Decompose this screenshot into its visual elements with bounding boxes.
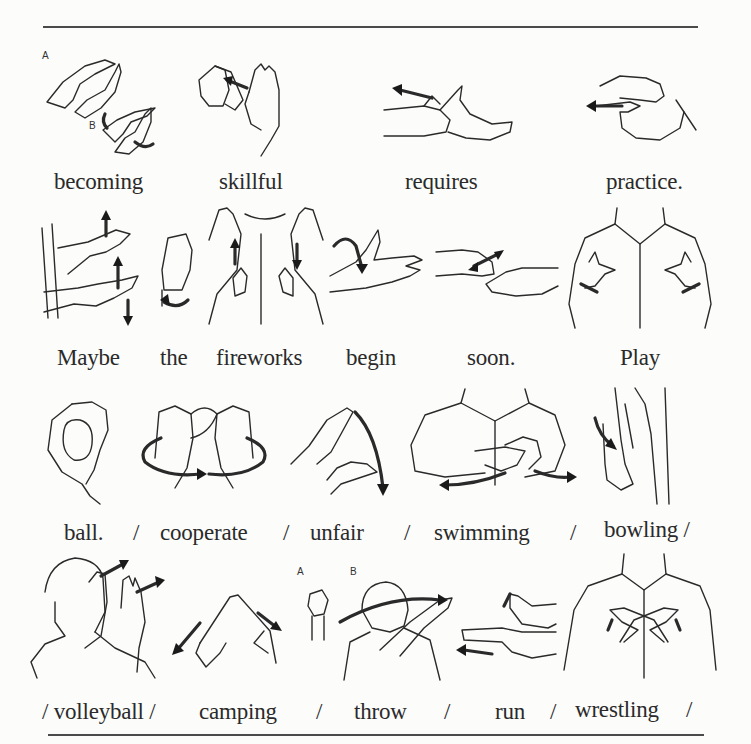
separator-slash: / [316, 700, 322, 723]
sign-cooperate-illustration [135, 398, 273, 490]
word-begin: begin [346, 346, 396, 369]
word-requires: requires [405, 170, 477, 193]
sign-the-illustration [158, 230, 200, 310]
illustration-label-a: A [42, 50, 49, 61]
sign-bowling-illustration [585, 384, 720, 504]
separator-slash: / [133, 521, 139, 544]
sign-fireworks-illustration [205, 204, 327, 329]
word-fireworks: fireworks [216, 346, 302, 369]
separator-slash: / [686, 698, 692, 721]
word-ball: ball. [64, 521, 103, 544]
sign-begin-illustration [326, 226, 436, 298]
separator-slash: / [570, 521, 576, 544]
word-skillful: skillful [219, 170, 283, 193]
sign-throw-illustration [300, 570, 460, 682]
sign-requires-illustration [380, 80, 520, 144]
word-maybe: Maybe [57, 346, 120, 369]
sign-play-illustration [565, 204, 715, 332]
word-soon: soon. [467, 346, 515, 369]
separator-slash: / [404, 521, 410, 544]
illustration-label-b: B [350, 566, 357, 577]
bottom-rule [48, 734, 704, 736]
separator-slash: / [550, 700, 556, 723]
word-unfair: unfair [310, 521, 364, 544]
illustration-label-a: A [297, 566, 304, 577]
sign-ball-illustration [42, 400, 112, 508]
sign-camping-illustration [160, 583, 285, 683]
sign-becoming-illustration [35, 42, 165, 164]
sign-maybe-illustration [38, 208, 153, 333]
word-run: run [495, 700, 525, 723]
word-practice: practice. [606, 170, 683, 193]
separator-slash: / [444, 700, 450, 723]
sign-run-illustration [452, 588, 562, 668]
sign-practice-illustration [580, 72, 700, 144]
word-camping: camping [199, 700, 277, 723]
word-the: the [160, 346, 188, 369]
word-bowling: bowling / [604, 518, 690, 541]
separator-slash: / [283, 521, 289, 544]
word-play: Play [620, 346, 660, 369]
sign-skillful-illustration [195, 60, 295, 162]
word-volleyball: / volleyball / [42, 700, 155, 723]
sign-volleyball-illustration [25, 552, 180, 680]
word-throw: throw [354, 700, 407, 723]
word-wrestling: wrestling [575, 698, 659, 721]
word-swimming: swimming [434, 521, 530, 544]
word-becoming: becoming [54, 170, 143, 193]
sign-wrestling-illustration [560, 550, 720, 680]
sign-swimming-illustration [405, 385, 585, 493]
top-rule [43, 26, 698, 28]
sign-unfair-illustration [287, 404, 393, 504]
sign-soon-illustration [432, 244, 562, 300]
illustration-label-b: B [89, 120, 96, 131]
word-cooperate: cooperate [160, 521, 248, 544]
